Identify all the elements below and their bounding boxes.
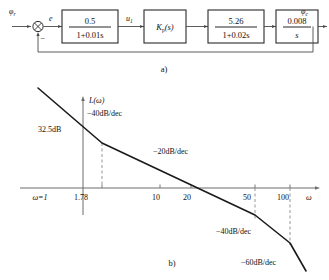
bode-tick-label-20: 20: [183, 193, 191, 202]
bode-tick-label-10: 10: [152, 193, 160, 202]
block-actuator-denominator: 1+0.02s: [222, 30, 249, 40]
figure-root: φr − e 0.5 1+0.01s u1: [0, 0, 329, 280]
block-controller: Kp(s): [144, 10, 186, 43]
block-actuator: 5.26 1+0.02s: [208, 10, 264, 43]
bode-x-axis-label: ω: [306, 193, 312, 202]
block-sensor-numerator: 0.5: [85, 16, 96, 26]
block-sensor-denominator: 1+0.01s: [76, 30, 103, 40]
wire-input: [12, 25, 31, 28]
wire-actuator-to-integrator: [264, 25, 276, 28]
figure-svg: φr − e 0.5 1+0.01s u1: [0, 0, 329, 280]
block-integrator: 0.008 s: [276, 10, 318, 43]
bode-x-axis: [20, 186, 320, 190]
bode-slope-label-1: −40dB/dec: [87, 109, 123, 118]
caption-panel-b: b): [168, 258, 175, 268]
bode-magnitude-curve: [38, 88, 306, 271]
wire-u1: [118, 25, 144, 28]
label-minus-sign: −: [41, 33, 46, 43]
label-e: e: [49, 14, 53, 23]
bode-slope-label-2: −20dB/dec: [153, 147, 189, 156]
bode-tick-label-100: 100: [277, 193, 289, 202]
bode-slope-label-3: −40dB/dec: [216, 227, 252, 236]
wire-e: [44, 25, 63, 28]
bode-tick-label-1p78: 1.78: [74, 193, 88, 202]
label-u1: u1: [126, 14, 133, 24]
bode-slope-label-4: −60dB/dec: [241, 258, 277, 267]
bode-tick-label-origin: ω=1: [32, 193, 47, 202]
block-controller-label: Kp(s): [155, 22, 174, 33]
label-phi-c: φc: [301, 7, 308, 17]
wire-controller-to-actuator: [186, 25, 208, 28]
label-phi-r: φr: [9, 7, 16, 17]
block-sensor: 0.5 1+0.01s: [62, 10, 118, 43]
block-integrator-numerator: 0.008: [287, 16, 306, 26]
bode-y-axis-label: L(ω): [88, 96, 105, 105]
panel-a-block-diagram: φr − e 0.5 1+0.01s u1: [9, 7, 327, 74]
caption-panel-a: a): [161, 64, 168, 74]
bode-gain-label: 32.5dB: [38, 125, 61, 134]
bode-tick-label-50: 50: [243, 193, 251, 202]
block-actuator-numerator: 5.26: [229, 16, 244, 26]
summing-junction: [33, 21, 43, 31]
bode-dashed-lines: [102, 143, 290, 245]
wire-output: [318, 25, 327, 28]
panel-b-bode-plot: L(ω) ω ω=1 1.78 10 20 50 100: [20, 88, 320, 271]
